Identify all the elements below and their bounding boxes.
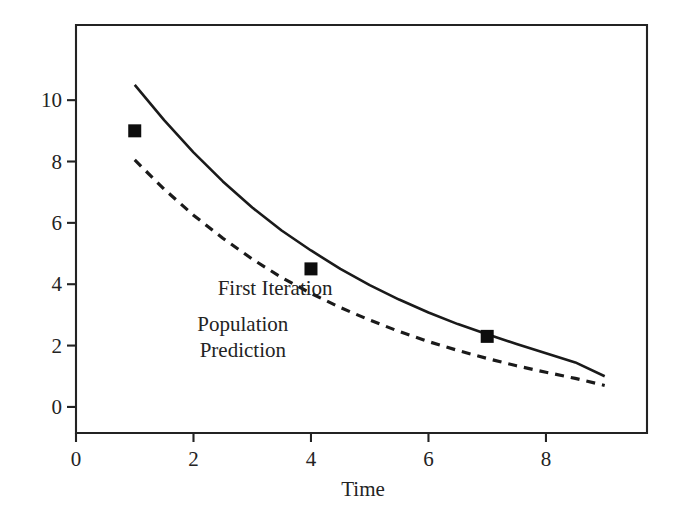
y-tick-label-1: 2 (52, 335, 63, 356)
data-marker-0 (128, 124, 141, 137)
data-marker-1 (304, 262, 317, 275)
chart-figure: 0246810 02468 Time First Iteration Popul… (0, 0, 681, 524)
series-label-population-prediction: Population Prediction (197, 311, 288, 365)
data-marker-2 (481, 330, 494, 343)
y-tick-label-4: 8 (52, 151, 63, 172)
y-tick-label-0: 0 (52, 396, 63, 417)
data-point-markers (128, 124, 493, 343)
series-label-first-iteration: First Iteration (218, 275, 333, 302)
x-tick-label-4: 8 (541, 449, 552, 470)
series-label-first-iteration-text: First Iteration (218, 275, 333, 302)
series-label-population-line-2: Prediction (197, 338, 288, 365)
x-tick-label-2: 4 (306, 449, 317, 470)
y-tick-label-3: 6 (52, 212, 63, 233)
plot-frame-rect (76, 25, 647, 433)
y-tick-label-2: 4 (52, 274, 63, 295)
chart-canvas (0, 0, 681, 524)
x-axis-title: Time (341, 479, 385, 500)
x-tick-label-1: 2 (188, 449, 199, 470)
x-tick-label-0: 0 (71, 449, 82, 470)
plot-frame (76, 25, 647, 433)
y-tick-label-5: 10 (41, 90, 62, 111)
series-label-population-line-1: Population (197, 311, 288, 338)
x-tick-label-3: 6 (423, 449, 434, 470)
